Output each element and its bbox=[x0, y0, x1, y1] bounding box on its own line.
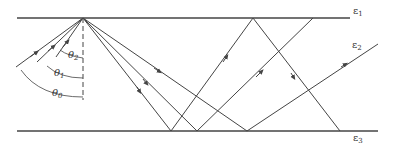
arrow-icon bbox=[137, 87, 140, 92]
arrow-icon bbox=[30, 52, 37, 57]
layer-label-eps2: ε2 bbox=[352, 39, 362, 52]
angle-label-theta0: θ0 bbox=[52, 87, 63, 100]
angle-label-theta2: θ2 bbox=[68, 49, 79, 62]
reflected-ray-a bbox=[83, 18, 171, 131]
ray-up-1 bbox=[171, 18, 253, 131]
ray-up-2 bbox=[197, 18, 313, 131]
angle-arc-theta1 bbox=[47, 66, 83, 78]
ray-exit-eps2 bbox=[247, 44, 378, 131]
layer-label-eps1: ε1 bbox=[353, 5, 363, 18]
arrow-icon bbox=[291, 73, 294, 78]
ray-reflection-diagram: θ2 θ1 θ0 ε1 ε2 ε3 bbox=[0, 0, 393, 148]
arrow-icon bbox=[48, 46, 54, 51]
arrow-icon bbox=[63, 41, 68, 47]
layer-label-eps3: ε3 bbox=[353, 132, 363, 145]
arrow-icon bbox=[256, 71, 262, 77]
reflected-ray-c bbox=[83, 18, 247, 131]
angle-label-theta1: θ1 bbox=[54, 67, 65, 80]
ray-down-3 bbox=[253, 18, 340, 131]
reflected-ray-b bbox=[83, 18, 197, 131]
